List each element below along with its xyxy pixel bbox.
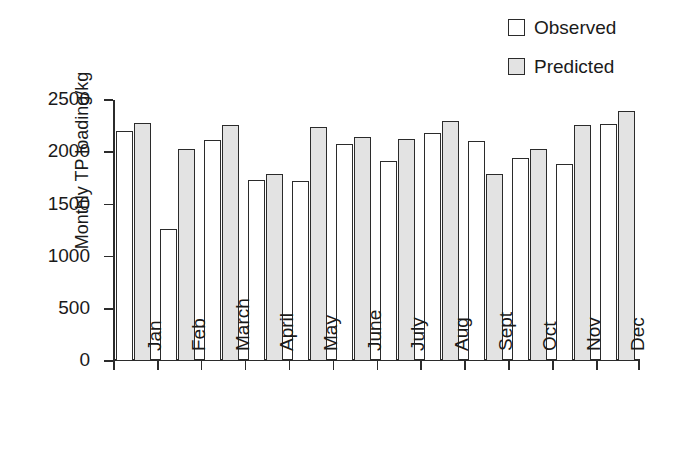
x-axis-tick <box>113 361 115 370</box>
plot-area: 05001000150020002500 JanFebMarchAprilMay… <box>113 100 640 361</box>
legend-label-observed: Observed <box>534 18 616 37</box>
x-axis-label-may: May <box>320 315 342 351</box>
y-axis-tick-label: 500 <box>58 297 90 319</box>
chart-figure: Observed Predicted Monthly TP loading/kg… <box>0 0 679 458</box>
chart-legend: Observed Predicted <box>508 18 616 76</box>
x-axis-label-june: June <box>364 310 386 351</box>
x-axis-label-april: April <box>276 313 298 351</box>
x-axis-label-dec: Dec <box>627 317 649 351</box>
x-axis-label-july: July <box>407 317 429 351</box>
x-axis-tick <box>289 361 291 370</box>
legend-item-predicted: Predicted <box>508 57 616 76</box>
y-axis-tick-label: 1000 <box>48 245 90 267</box>
y-axis-tick-label: 2000 <box>48 140 90 162</box>
y-axis-tick: 1500 <box>104 204 113 206</box>
x-axis-tick <box>552 361 554 370</box>
y-axis-tick: 500 <box>104 308 113 310</box>
y-axis-tick: 2500 <box>104 99 113 101</box>
bar-observed-jan <box>116 131 133 361</box>
x-axis-tick <box>596 361 598 370</box>
x-axis-tick <box>157 361 159 370</box>
x-axis-tick <box>377 361 379 370</box>
y-axis-line <box>113 100 115 361</box>
x-axis-tick <box>508 361 510 370</box>
y-axis-tick: 2000 <box>104 151 113 153</box>
y-axis-tick-label: 2500 <box>48 88 90 110</box>
legend-swatch-predicted-icon <box>508 58 525 75</box>
x-axis-label-nov: Nov <box>583 317 605 351</box>
x-axis-label-aug: Aug <box>451 317 473 351</box>
x-axis-label-jan: Jan <box>144 320 166 351</box>
x-axis-label-feb: Feb <box>188 318 210 351</box>
x-axis-label-oct: Oct <box>539 321 561 351</box>
x-axis-label-march: March <box>232 298 254 351</box>
y-axis-tick: 0 <box>104 360 113 362</box>
legend-label-predicted: Predicted <box>534 57 614 76</box>
x-axis-tick <box>245 361 247 370</box>
legend-item-observed: Observed <box>508 18 616 37</box>
x-axis-tick <box>638 361 640 370</box>
x-axis-tick <box>201 361 203 370</box>
x-axis-tick <box>333 361 335 370</box>
x-axis-tick <box>420 361 422 370</box>
x-axis-label-sept: Sept <box>495 312 517 351</box>
y-axis-tick-label: 0 <box>79 349 90 371</box>
y-axis-tick-label: 1500 <box>48 193 90 215</box>
legend-swatch-observed-icon <box>508 19 525 36</box>
y-axis-tick: 1000 <box>104 256 113 258</box>
x-axis-tick <box>464 361 466 370</box>
